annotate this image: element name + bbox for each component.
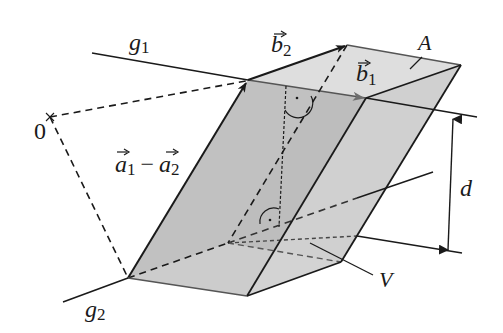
label-A: A [416, 30, 432, 55]
label-origin: 0 [34, 118, 46, 144]
position-vector-a2 [50, 117, 128, 278]
lower-parallel [357, 236, 462, 253]
right-angle-dot-top [296, 97, 299, 100]
skew-lines-diagram: g1 g2 0 b2 b1 a1−a2 A V d [0, 0, 503, 333]
label-g1: g1 [129, 29, 150, 57]
line-g1 [92, 53, 248, 80]
label-d: d [460, 175, 473, 201]
svg-text:a1−a2: a1−a2 [115, 151, 180, 179]
svg-text:b2: b2 [271, 31, 292, 60]
label-g2: g2 [85, 296, 106, 324]
label-a1-minus-a2: a1−a2 [115, 149, 180, 179]
distance-d-arrow [448, 119, 453, 250]
position-vector-a1 [50, 81, 246, 117]
right-angle-dot-bottom [269, 219, 272, 222]
label-V: V [379, 267, 395, 292]
label-b2: b2 [271, 31, 292, 60]
